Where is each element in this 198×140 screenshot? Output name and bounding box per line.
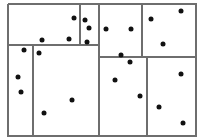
data-point — [161, 42, 166, 47]
partition-line-v-142 — [141, 4, 142, 58]
data-point — [85, 40, 90, 45]
data-point — [179, 9, 184, 14]
partition-line-h-top-right — [99, 56, 197, 57]
partition-line-border-left — [7, 4, 8, 137]
partition-diagram — [0, 0, 198, 140]
data-point — [119, 53, 124, 58]
data-point — [129, 27, 134, 32]
data-point — [128, 60, 133, 65]
partition-line-v-99 — [98, 4, 99, 137]
data-point — [37, 51, 42, 56]
partition-line-border-top — [8, 3, 197, 4]
data-point — [16, 75, 21, 80]
partition-line-v-147 — [146, 57, 147, 137]
partition-line-border-bottom — [8, 135, 197, 136]
data-point — [67, 37, 72, 42]
partition-line-border-right — [195, 4, 196, 137]
data-point — [83, 18, 88, 23]
data-point — [149, 17, 154, 22]
data-point — [104, 27, 109, 32]
data-point — [138, 94, 143, 99]
data-point — [22, 48, 27, 53]
data-point — [42, 111, 47, 116]
data-point — [157, 105, 162, 110]
partition-line-h-top-left — [8, 44, 100, 45]
data-point — [181, 121, 186, 126]
data-point — [87, 26, 92, 31]
data-point — [40, 38, 45, 43]
data-point — [113, 78, 118, 83]
data-point — [70, 98, 75, 103]
partition-line-v-33 — [32, 45, 33, 137]
partition-line-v-80 — [79, 4, 80, 46]
data-point — [19, 90, 24, 95]
data-point — [179, 72, 184, 77]
data-point — [72, 16, 77, 21]
